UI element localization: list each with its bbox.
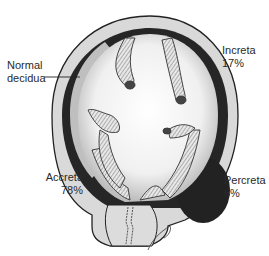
label-accreta-name: Accreta bbox=[45, 171, 83, 184]
label-normal-decidua: Normal decidua bbox=[7, 59, 46, 85]
label-increta-name: Increta bbox=[222, 44, 256, 57]
label-normal-decidua-line1: Normal bbox=[7, 59, 46, 72]
label-accreta-percent: 78% bbox=[45, 184, 83, 197]
label-normal-decidua-line2: decidua bbox=[7, 72, 46, 85]
diagram-canvas: Normal decidua Increta 17% Accreta 78% P… bbox=[0, 0, 269, 256]
label-percreta: Percreta 5% bbox=[224, 174, 266, 200]
cervix bbox=[105, 205, 157, 246]
label-increta-percent: 17% bbox=[222, 57, 256, 70]
label-percreta-name: Percreta bbox=[224, 174, 266, 187]
uterus-illustration bbox=[0, 0, 269, 256]
label-increta: Increta 17% bbox=[222, 44, 256, 70]
label-accreta: Accreta 78% bbox=[45, 171, 83, 197]
label-percreta-percent: 5% bbox=[224, 187, 266, 200]
